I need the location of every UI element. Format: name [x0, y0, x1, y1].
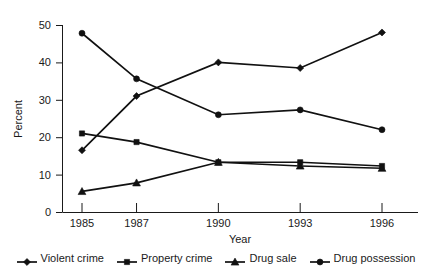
- legend-marker-icon: [117, 253, 137, 263]
- chart-plot-area: 01020304050 19851987199019931996 Percent…: [0, 0, 432, 252]
- series-polyline: [82, 33, 382, 129]
- x-tick-label: 1990: [206, 217, 230, 229]
- data-series-group: [78, 29, 386, 195]
- legend-item-label: Violent crime: [41, 252, 104, 264]
- y-axis-ticks: [56, 26, 63, 213]
- x-tick-label: 1985: [70, 217, 94, 229]
- series-polyline: [82, 133, 382, 166]
- x-tick-label: 1987: [124, 217, 148, 229]
- legend-item-label: Drug possession: [334, 252, 416, 264]
- x-tick-label: 1996: [370, 217, 394, 229]
- data-point-marker: [215, 112, 221, 118]
- chart-legend: Violent crimeProperty crimeDrug saleDrug…: [0, 252, 432, 264]
- y-tick-label: 40: [39, 56, 51, 68]
- legend-marker-icon: [17, 253, 37, 263]
- data-point-marker: [134, 76, 140, 82]
- y-tick-label: 0: [45, 206, 51, 218]
- data-point-marker: [297, 107, 303, 113]
- y-tick-label: 50: [39, 19, 51, 31]
- x-axis-ticks: [82, 203, 382, 213]
- series-polyline: [82, 162, 382, 191]
- data-series: [79, 30, 385, 132]
- data-point-marker: [378, 29, 385, 36]
- y-tick-label: 20: [39, 131, 51, 143]
- y-tick-label: 10: [39, 169, 51, 181]
- legend-marker-icon: [225, 253, 245, 263]
- series-polyline: [82, 32, 382, 150]
- legend-item[interactable]: Drug possession: [310, 252, 416, 264]
- y-tick-label: 30: [39, 94, 51, 106]
- y-axis-title: Percent: [12, 100, 24, 138]
- data-point-marker: [215, 59, 222, 66]
- legend-item[interactable]: Property crime: [117, 252, 213, 264]
- legend-marker-icon: [310, 253, 330, 263]
- x-tick-label: 1993: [288, 217, 312, 229]
- x-axis-title: Year: [229, 233, 252, 245]
- legend-item-label: Property crime: [141, 252, 213, 264]
- data-point-marker: [79, 131, 84, 136]
- data-point-marker: [134, 139, 139, 144]
- data-point-marker: [79, 30, 85, 36]
- legend-item[interactable]: Violent crime: [17, 252, 104, 264]
- x-axis-tick-labels: 19851987199019931996: [70, 217, 394, 229]
- line-chart: 01020304050 19851987199019931996 Percent…: [0, 0, 432, 278]
- data-point-marker: [297, 65, 304, 72]
- legend-item[interactable]: Drug sale: [225, 252, 296, 264]
- data-point-marker: [379, 127, 385, 133]
- legend-item-label: Drug sale: [249, 252, 296, 264]
- y-axis-tick-labels: 01020304050: [39, 19, 51, 218]
- data-series: [78, 29, 385, 154]
